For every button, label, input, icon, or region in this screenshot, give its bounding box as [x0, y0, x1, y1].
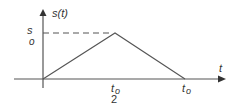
- triangle-signal: [43, 33, 185, 79]
- y-axis-arrow-icon: [40, 9, 47, 16]
- s0-label-main: s: [27, 24, 33, 36]
- s0-label-sub: o: [29, 36, 35, 47]
- x-axis-label: t: [219, 62, 223, 74]
- x-axis-arrow-icon: [218, 76, 226, 83]
- triangular-pulse-diagram: s(t) t s o t o 2 t o: [0, 0, 235, 108]
- half-t0-den: 2: [111, 93, 117, 105]
- diagram-canvas: s(t) t s o t o 2 t o: [0, 0, 235, 108]
- y-axis-label: s(t): [52, 7, 68, 19]
- t0-label-sub: o: [186, 86, 191, 96]
